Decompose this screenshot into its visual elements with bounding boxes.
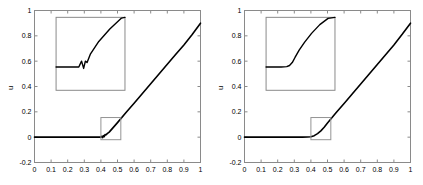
ylabel-right: u xyxy=(216,86,225,90)
x-tick-label: 0.4 xyxy=(96,166,106,173)
x-tick-label: 0.2 xyxy=(63,166,73,173)
x-tick-label: 0.7 xyxy=(356,166,366,173)
x-tick-label: 0.6 xyxy=(129,166,139,173)
x-tick-label: 0.3 xyxy=(289,166,299,173)
x-tick-label: 1 xyxy=(199,166,203,173)
x-tick-label: 0.8 xyxy=(162,166,172,173)
x-tick-label: 0.4 xyxy=(306,166,316,173)
x-tick-label: 1 xyxy=(409,166,413,173)
y-tick-label: 0.8 xyxy=(22,32,32,39)
y-tick-label: 0.4 xyxy=(22,83,32,90)
x-tick-label: 0.6 xyxy=(339,166,349,173)
y-tick-label: 0.2 xyxy=(232,108,242,115)
y-tick-label: 1 xyxy=(28,7,32,14)
yticklabels-left: -0.200.20.40.60.81 xyxy=(19,7,31,166)
x-tick-label: 0.8 xyxy=(372,166,382,173)
y-tick-label: 0 xyxy=(238,134,242,141)
plot-panel-left: 00.10.20.30.40.50.60.70.80.91 -0.200.20.… xyxy=(0,0,211,185)
y-tick-label: -0.2 xyxy=(229,159,241,166)
y-tick-label: 0.2 xyxy=(22,108,32,115)
y-tick-label: 0 xyxy=(28,134,32,141)
y-tick-label: 0.6 xyxy=(232,58,242,65)
inset-axes-right xyxy=(266,17,335,90)
plot-right-svg: 00.10.20.30.40.50.60.70.80.91 -0.200.20.… xyxy=(212,0,423,185)
y-tick-label: 0.6 xyxy=(22,58,32,65)
x-tick-label: 0.2 xyxy=(273,166,283,173)
x-tick-label: 0.9 xyxy=(179,166,189,173)
y-tick-label: 1 xyxy=(238,7,242,14)
x-tick-label: 0.5 xyxy=(323,166,333,173)
xticklabels-right: 00.10.20.30.40.50.60.70.80.91 xyxy=(243,166,413,173)
plot-panel-right: 00.10.20.30.40.50.60.70.80.91 -0.200.20.… xyxy=(212,0,423,185)
xticklabels-left: 00.10.20.30.40.50.60.70.80.91 xyxy=(33,166,203,173)
yticklabels-right: -0.200.20.40.60.81 xyxy=(229,7,241,166)
x-tick-label: 0.7 xyxy=(146,166,156,173)
x-tick-label: 0.9 xyxy=(389,166,399,173)
figure-container: 00.10.20.30.40.50.60.70.80.91 -0.200.20.… xyxy=(0,0,423,185)
x-tick-label: 0 xyxy=(243,166,247,173)
x-tick-label: 0.5 xyxy=(113,166,123,173)
x-tick-label: 0.1 xyxy=(46,166,56,173)
x-tick-label: 0.3 xyxy=(79,166,89,173)
y-tick-label: 0.8 xyxy=(232,32,242,39)
plot-left-svg: 00.10.20.30.40.50.60.70.80.91 -0.200.20.… xyxy=(0,0,211,185)
y-tick-label: 0.4 xyxy=(232,83,242,90)
ylabel-left: u xyxy=(6,86,15,90)
x-tick-label: 0 xyxy=(33,166,37,173)
y-tick-label: -0.2 xyxy=(19,159,31,166)
x-tick-label: 0.1 xyxy=(256,166,266,173)
